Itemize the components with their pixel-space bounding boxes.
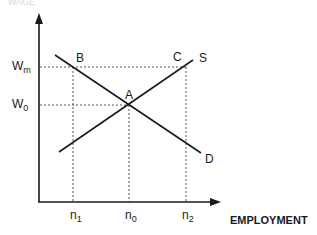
- point-label-c: C: [173, 51, 182, 63]
- labor-market-diagram: [0, 0, 317, 235]
- point-label-a: A: [125, 89, 133, 101]
- y-tick-wm-base: W: [12, 59, 23, 73]
- x-axis-arrowhead-icon: [210, 198, 221, 206]
- y-tick-wm: Wm: [12, 60, 31, 72]
- x-tick-n1-sub: 1: [77, 214, 82, 224]
- point-label-b: B: [76, 52, 84, 64]
- y-axis-title-cropped: WAGE: [8, 0, 35, 8]
- y-tick-wm-sub: m: [23, 65, 31, 75]
- supply-curve-label: S: [199, 52, 207, 64]
- x-tick-n0: n0: [125, 209, 137, 221]
- x-tick-n2: n2: [182, 209, 194, 221]
- x-tick-n0-base: n: [125, 208, 132, 222]
- x-tick-n1-base: n: [70, 208, 77, 222]
- x-axis-title: EMPLOYMENT: [230, 214, 308, 226]
- x-tick-n1: n1: [70, 209, 82, 221]
- demand-curve-label: D: [205, 153, 214, 165]
- x-tick-n2-sub: 2: [189, 214, 194, 224]
- y-tick-w0-base: W: [12, 97, 23, 111]
- guide-lines: [40, 67, 186, 202]
- y-tick-w0: W0: [12, 98, 28, 110]
- x-tick-n2-base: n: [182, 208, 189, 222]
- y-axis-arrowhead-icon: [35, 13, 43, 24]
- supply-curve: [59, 60, 193, 152]
- x-tick-n0-sub: 0: [132, 214, 137, 224]
- y-tick-w0-sub: 0: [23, 103, 28, 113]
